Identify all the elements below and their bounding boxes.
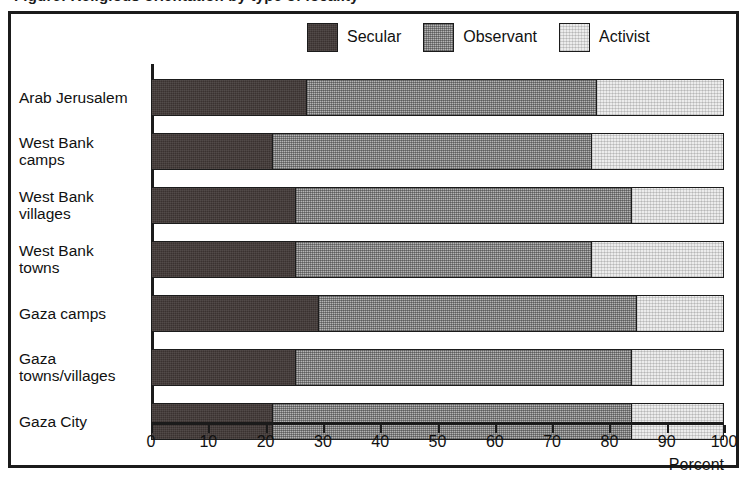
category-label: West Bankvillages [19, 188, 145, 222]
x-tick [266, 425, 268, 433]
chart-frame: Secular Observant Activist Arab Jerusale… [8, 11, 739, 468]
chart-title-strip: Figure: Religious orientation by type of… [0, 0, 747, 10]
category-label: West Bankcamps [19, 134, 145, 168]
bar-row: West Bankvillages [11, 180, 736, 231]
x-tick [552, 425, 554, 433]
x-tick [208, 425, 210, 433]
bar-segment-observant[interactable] [272, 134, 592, 169]
stacked-bar[interactable] [151, 133, 724, 170]
bar-row: West Banktowns [11, 234, 736, 285]
category-label: Gaza camps [19, 305, 145, 322]
x-tick [438, 425, 440, 433]
bar-segment-secular[interactable] [152, 188, 295, 223]
x-tick [667, 425, 669, 433]
bar-segment-observant[interactable] [295, 188, 632, 223]
bar-row: Arab Jerusalem [11, 72, 736, 123]
x-tick-label: 80 [600, 433, 618, 451]
category-label: West Banktowns [19, 242, 145, 276]
stacked-bar[interactable] [151, 295, 724, 332]
bar-segment-observant[interactable] [295, 350, 632, 385]
bar-segment-secular[interactable] [152, 80, 306, 115]
x-axis-tick-labels: 0102030405060708090100 [151, 433, 724, 455]
legend-item-observant[interactable]: Observant [423, 23, 537, 52]
bar-segment-secular[interactable] [152, 350, 295, 385]
legend-swatch-icon [559, 23, 590, 52]
stacked-bar[interactable] [151, 187, 724, 224]
bar-segment-observant[interactable] [306, 80, 597, 115]
x-tick-label: 60 [486, 433, 504, 451]
category-label: Gazatowns/villages [19, 350, 145, 384]
legend-label-observant: Observant [463, 28, 537, 46]
stacked-bar[interactable] [151, 241, 724, 278]
bar-segment-secular[interactable] [152, 242, 295, 277]
bar-segment-activist[interactable] [632, 350, 723, 385]
category-label: Gaza City [19, 413, 145, 430]
x-tick-label: 50 [429, 433, 447, 451]
x-tick-label: 20 [257, 433, 275, 451]
chart-legend: Secular Observant Activist [307, 20, 727, 54]
legend-label-secular: Secular [347, 28, 401, 46]
bar-rows: Arab JerusalemWest BankcampsWest Bankvil… [11, 64, 736, 422]
legend-label-activist: Activist [599, 28, 650, 46]
bar-segment-secular[interactable] [152, 296, 318, 331]
page-title: Figure: Religious orientation by type of… [14, 0, 359, 4]
x-tick-label: 90 [658, 433, 676, 451]
x-tick [495, 425, 497, 433]
bar-row: West Bankcamps [11, 126, 736, 177]
x-tick [724, 425, 726, 433]
stacked-bar[interactable] [151, 79, 724, 116]
legend-swatch-icon [307, 23, 338, 52]
x-tick-label: 100 [711, 433, 738, 451]
plot-area: Arab JerusalemWest BankcampsWest Bankvil… [11, 56, 736, 468]
legend-item-secular[interactable]: Secular [307, 23, 401, 52]
stacked-bar[interactable] [151, 349, 724, 386]
x-tick [380, 425, 382, 433]
bar-segment-activist[interactable] [637, 296, 723, 331]
x-tick [609, 425, 611, 433]
bar-segment-activist[interactable] [592, 242, 723, 277]
x-tick [151, 425, 153, 433]
bar-segment-activist[interactable] [597, 80, 723, 115]
x-tick-label: 40 [371, 433, 389, 451]
bar-row: Gazatowns/villages [11, 342, 736, 393]
bar-segment-observant[interactable] [318, 296, 638, 331]
x-tick-label: 0 [147, 433, 156, 451]
legend-swatch-icon [423, 23, 454, 52]
x-tick-label: 10 [199, 433, 217, 451]
legend-item-activist[interactable]: Activist [559, 23, 650, 52]
bar-row: Gaza camps [11, 288, 736, 339]
x-axis-title: Percent [669, 456, 724, 474]
bar-segment-activist[interactable] [592, 134, 723, 169]
bar-segment-activist[interactable] [632, 188, 723, 223]
x-tick-label: 30 [314, 433, 332, 451]
x-tick-label: 70 [543, 433, 561, 451]
bar-segment-observant[interactable] [295, 242, 592, 277]
category-label: Arab Jerusalem [19, 89, 145, 106]
bar-segment-secular[interactable] [152, 134, 272, 169]
x-axis-ticks [151, 425, 724, 433]
x-tick [323, 425, 325, 433]
